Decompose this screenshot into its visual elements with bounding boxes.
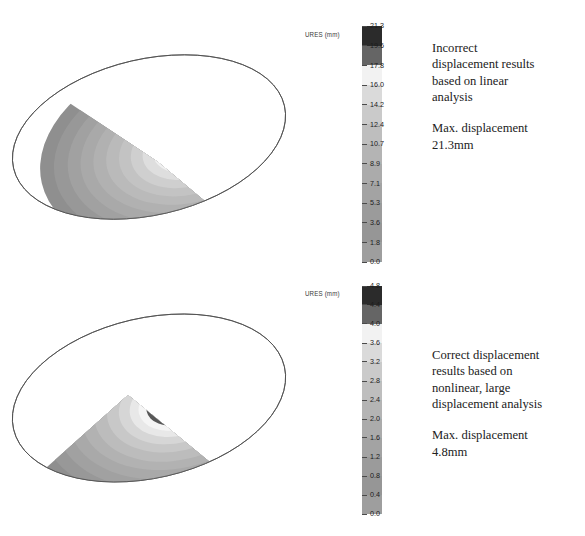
colorbar-tick-label: 0.8 [370,473,380,480]
colorbar-ticks-nonlinear: 4.84.44.03.63.22.82.42.01.61.20.80.40.0 [362,286,408,514]
colorbar-tick-label: 3.2 [370,359,380,366]
contour-plot-nonlinear-graphic [8,300,290,496]
colorbar-tick-label: 2.0 [370,416,380,423]
tick-dash-icon [362,163,367,164]
tick-dash-icon [362,457,367,458]
colorbar-tick-label: 14.2 [370,101,384,108]
annotation-linear-max: Max. displacement 21.3mm [432,120,582,153]
contour-plot-nonlinear [8,300,290,496]
colorbar-tick-label: 4.0 [370,321,380,328]
tick-dash-icon [362,262,367,263]
tick-dash-icon [362,65,367,66]
tick-dash-icon [362,242,367,243]
tick-dash-icon [362,104,367,105]
colorbar-tick-label: 17.8 [370,62,384,69]
annotation-linear-max-label: Max. displacement [432,121,528,135]
annotation-linear-line3: based on linear [432,74,508,88]
colorbar-tick-label: 2.8 [370,378,380,385]
tick-dash-icon [362,144,367,145]
colorbar-tick-label: 2.4 [370,397,380,404]
tick-dash-icon [362,85,367,86]
tick-dash-icon [362,222,367,223]
annotation-nonlinear-line1: Correct displacement [432,348,539,362]
colorbar-tick-label: 1.8 [370,239,380,246]
colorbar-tick-label: 0.0 [370,259,380,266]
colorbar-tick-label: 4.4 [370,302,380,309]
annotation-nonlinear-line2: results based on [432,364,512,378]
annotation-nonlinear-line4: displacement analysis [432,397,542,411]
tick-dash-icon [362,514,367,515]
colorbar-tick-label: 4.8 [370,283,380,290]
annotation-nonlinear-description: Correct displacement results based on no… [432,347,582,412]
colorbar-tick-label: 3.6 [370,340,380,347]
annotation-linear-description: Incorrect displacement results based on … [432,40,582,105]
tick-dash-icon [362,286,367,287]
colorbar-tick-label: 5.3 [370,200,380,207]
colorbar-tick-label: 7.1 [370,180,380,187]
colorbar-tick-label: 1.6 [370,435,380,442]
colorbar-tick-label: 0.0 [370,511,380,518]
colorbar-tick-label: 12.4 [370,121,384,128]
colorbar-ticks-linear: 21.319.617.816.014.212.410.78.97.15.33.6… [362,26,408,262]
annotation-linear-line4: analysis [432,90,473,104]
colorbar-tick-label: 19.6 [370,42,384,49]
annotation-nonlinear-max-label: Max. displacement [432,428,528,442]
tick-dash-icon [362,400,367,401]
annotation-nonlinear-max-value: 4.8mm [432,445,467,459]
annotation-linear-max-value: 21.3mm [432,138,474,152]
colorbar-tick-label: 8.9 [370,160,380,167]
colorbar-nonlinear: URES (mm) 4.84.44.03.63.22.82.42.01.61.2… [305,286,385,518]
annotation-nonlinear: Correct displacement results based on no… [432,347,582,460]
colorbar-tick-label: 16.0 [370,82,384,89]
colorbar-title-linear: URES (mm) [305,31,340,38]
tick-dash-icon [362,26,367,27]
annotation-linear-line1: Incorrect [432,41,477,55]
tick-dash-icon [362,476,367,477]
tick-dash-icon [362,495,367,496]
tick-dash-icon [362,124,367,125]
contour-plot-linear [8,42,290,232]
annotation-linear-line2: displacement results [432,57,534,71]
tick-dash-icon [362,203,367,204]
colorbar-tick-label: 3.6 [370,219,380,226]
colorbar-tick-label: 1.2 [370,454,380,461]
colorbar-tick-label: 10.7 [370,141,384,148]
annotation-linear: Incorrect displacement results based on … [432,40,582,153]
colorbar-tick-label: 0.4 [370,492,380,499]
tick-dash-icon [362,343,367,344]
tick-dash-icon [362,419,367,420]
annotation-nonlinear-max: Max. displacement 4.8mm [432,427,582,460]
tick-dash-icon [362,45,367,46]
contour-plot-linear-graphic [8,42,290,232]
colorbar-tick-label: 21.3 [370,23,384,30]
annotation-nonlinear-line3: nonlinear, large [432,381,510,395]
colorbar-linear: URES (mm) 21.319.617.816.014.212.410.78.… [305,26,385,266]
tick-dash-icon [362,437,367,438]
tick-dash-icon [362,361,367,362]
tick-dash-icon [362,381,367,382]
tick-dash-icon [362,183,367,184]
colorbar-title-nonlinear: URES (mm) [305,290,340,297]
tick-dash-icon [362,304,367,305]
figure-root: URES (mm) 21.319.617.816.014.212.410.78.… [0,0,585,536]
tick-dash-icon [362,323,367,324]
